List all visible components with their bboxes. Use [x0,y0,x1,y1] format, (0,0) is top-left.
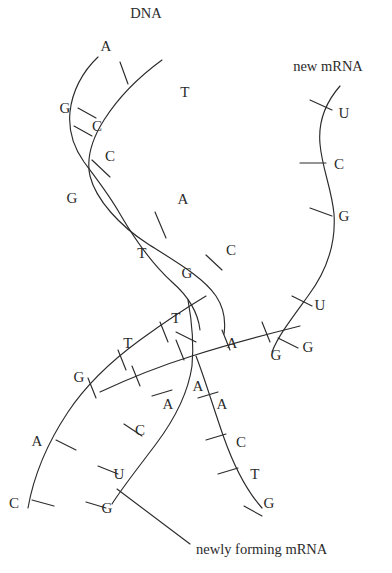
base-tick [206,434,226,440]
base-label: G [73,370,84,385]
dna-label: DNA [130,6,161,21]
base-tick [132,366,140,386]
base-label: T [180,85,189,100]
base-label: U [314,298,325,313]
base-label: A [177,192,188,207]
base-label: C [334,157,344,172]
base-label: A [162,397,173,412]
base-label: G [270,348,281,363]
dna-rung [155,212,166,238]
coding-dna-strand-lower [196,356,262,508]
base-label: T [171,311,180,326]
base-label: A [192,379,203,394]
dna-rung [74,126,92,136]
base-label: A [100,39,111,54]
base-label: C [236,435,246,450]
transcription-diagram: DNA new mRNA newly forming mRNA A G C C … [0,0,392,573]
base-label: G [302,340,313,355]
base-label: T [137,246,146,261]
base-label: C [92,119,102,134]
dna-rung [78,108,96,118]
base-tick [176,340,184,360]
dna-rung [120,62,128,84]
base-label: G [338,209,349,224]
base-label: T [250,467,259,482]
base-label: G [59,101,70,116]
base-label: U [338,106,349,121]
base-tick [262,322,270,342]
base-label: C [226,243,236,258]
new-mrna-strand [272,86,340,352]
newly-forming-mrna-label: newly forming mRNA [196,542,327,557]
base-label: A [226,336,237,351]
base-tick [32,500,54,506]
base-label: G [66,191,77,206]
new-mrna-label: new mRNA [293,59,363,74]
base-tick [218,468,238,474]
base-tick [310,208,332,216]
diagram-artwork [0,0,392,573]
base-label: C [135,423,145,438]
base-label: U [113,467,124,482]
base-tick [118,350,126,370]
base-tick [56,440,76,450]
base-tick [160,322,168,342]
base-label: A [216,397,227,412]
caption-leader-line [117,489,190,544]
base-label: G [101,501,112,516]
base-label: T [123,336,132,351]
base-label: A [31,434,42,449]
base-label: C [9,496,19,511]
base-tick [88,378,96,398]
base-label: G [263,496,274,511]
base-label: G [181,266,192,281]
dna-rung [206,255,222,270]
base-tick [244,506,262,516]
base-label: C [105,149,115,164]
